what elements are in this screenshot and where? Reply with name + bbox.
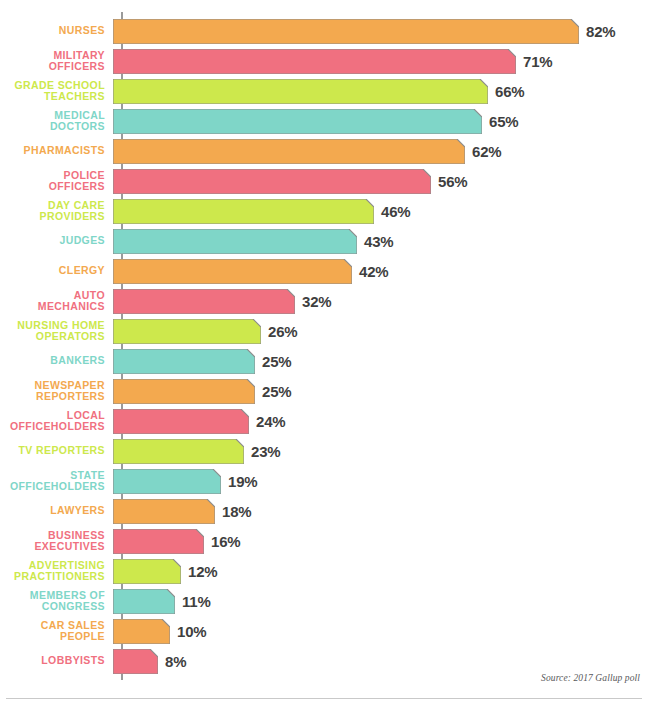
- bar-value-label: 19%: [228, 473, 257, 490]
- bar-plot-area: 10%: [113, 616, 648, 646]
- bar[interactable]: [113, 559, 181, 584]
- bar-wrapper: 65%: [113, 109, 518, 134]
- bar-wrapper: 18%: [113, 499, 251, 524]
- bar-value-label: 18%: [222, 503, 251, 520]
- bar-wrapper: 11%: [113, 589, 211, 614]
- bar-wrapper: 12%: [113, 559, 217, 584]
- bar-plot-area: 25%: [113, 376, 648, 406]
- bar-row: MILITARY OFFICERS71%: [0, 46, 648, 76]
- bar-row: NEWSPAPER REPORTERS25%: [0, 376, 648, 406]
- bar-wrapper: 62%: [113, 139, 501, 164]
- bar-row: CAR SALES PEOPLE10%: [0, 616, 648, 646]
- bar-shape: [113, 619, 170, 644]
- bar-value-label: 82%: [586, 23, 615, 40]
- bar-value-label: 16%: [211, 533, 240, 550]
- bar-wrapper: 8%: [113, 649, 186, 674]
- bar-row: JUDGES43%: [0, 226, 648, 256]
- bar[interactable]: [113, 289, 295, 314]
- bar[interactable]: [113, 139, 465, 164]
- bar-shape: [113, 139, 465, 164]
- bar[interactable]: [113, 589, 175, 614]
- bar-plot-area: 65%: [113, 106, 648, 136]
- bar-category-label: TV REPORTERS: [0, 445, 113, 457]
- bottom-divider: [6, 698, 642, 699]
- bar-plot-area: 24%: [113, 406, 648, 436]
- bar-category-label: MEMBERS OF CONGRESS: [0, 590, 113, 613]
- bar[interactable]: [113, 349, 255, 374]
- bar-wrapper: 43%: [113, 229, 393, 254]
- bar-category-label: DAY CARE PROVIDERS: [0, 200, 113, 223]
- bar-shape: [113, 499, 215, 524]
- bar-shape: [113, 229, 357, 254]
- bar-row: LAWYERS18%: [0, 496, 648, 526]
- bar-value-label: 10%: [177, 623, 206, 640]
- bar-value-label: 42%: [359, 263, 388, 280]
- bar-value-label: 62%: [472, 143, 501, 160]
- bar-wrapper: 24%: [113, 409, 285, 434]
- bar-row: AUTO MECHANICS32%: [0, 286, 648, 316]
- bar-row: MEDICAL DOCTORS65%: [0, 106, 648, 136]
- bar-value-label: 32%: [302, 293, 331, 310]
- bar-value-label: 24%: [256, 413, 285, 430]
- bar-shape: [113, 169, 431, 194]
- bar-plot-area: 71%: [113, 46, 648, 76]
- bar-row: POLICE OFFICERS56%: [0, 166, 648, 196]
- bar[interactable]: [113, 169, 431, 194]
- bar[interactable]: [113, 319, 261, 344]
- bar-wrapper: 66%: [113, 79, 524, 104]
- bar-row: CLERGY42%: [0, 256, 648, 286]
- bar-plot-area: 11%: [113, 586, 648, 616]
- bar[interactable]: [113, 409, 249, 434]
- bar[interactable]: [113, 259, 352, 284]
- bar[interactable]: [113, 109, 482, 134]
- bar-wrapper: 71%: [113, 49, 552, 74]
- bar-shape: [113, 349, 255, 374]
- bar-row: NURSES82%: [0, 16, 648, 46]
- bar-row: BANKERS25%: [0, 346, 648, 376]
- bar-category-label: STATE OFFICEHOLDERS: [0, 470, 113, 493]
- bar-category-label: BANKERS: [0, 355, 113, 367]
- bar-category-label: BUSINESS EXECUTIVES: [0, 530, 113, 553]
- bar-category-label: GRADE SCHOOL TEACHERS: [0, 80, 113, 103]
- bar-category-label: JUDGES: [0, 235, 113, 247]
- bar-shape: [113, 409, 249, 434]
- bar[interactable]: [113, 379, 255, 404]
- bar-row: TV REPORTERS23%: [0, 436, 648, 466]
- bar[interactable]: [113, 619, 170, 644]
- bar[interactable]: [113, 49, 516, 74]
- bar-value-label: 46%: [381, 203, 410, 220]
- bar-shape: [113, 109, 482, 134]
- bar[interactable]: [113, 499, 215, 524]
- bar-value-label: 12%: [188, 563, 217, 580]
- bar[interactable]: [113, 469, 221, 494]
- bar[interactable]: [113, 19, 579, 44]
- bar-row: MEMBERS OF CONGRESS11%: [0, 586, 648, 616]
- bar[interactable]: [113, 649, 158, 674]
- bar-shape: [113, 289, 295, 314]
- bar-plot-area: 46%: [113, 196, 648, 226]
- bar-row: STATE OFFICEHOLDERS19%: [0, 466, 648, 496]
- bar-wrapper: 42%: [113, 259, 388, 284]
- bar-category-label: MEDICAL DOCTORS: [0, 110, 113, 133]
- bar-plot-area: 42%: [113, 256, 648, 286]
- bar[interactable]: [113, 79, 488, 104]
- bar[interactable]: [113, 199, 374, 224]
- bar-category-label: ADVERTISING PRACTITIONERS: [0, 560, 113, 583]
- bar-value-label: 56%: [438, 173, 467, 190]
- bar-plot-area: 23%: [113, 436, 648, 466]
- bar-category-label: AUTO MECHANICS: [0, 290, 113, 313]
- bar-value-label: 43%: [364, 233, 393, 250]
- bar[interactable]: [113, 439, 244, 464]
- bar-wrapper: 56%: [113, 169, 467, 194]
- bar-chart: NURSES82%MILITARY OFFICERS71%GRADE SCHOO…: [0, 0, 648, 707]
- bar[interactable]: [113, 529, 204, 554]
- bar-rows-container: NURSES82%MILITARY OFFICERS71%GRADE SCHOO…: [0, 16, 648, 676]
- bar-wrapper: 25%: [113, 349, 291, 374]
- bar-plot-area: 62%: [113, 136, 648, 166]
- bar-plot-area: 16%: [113, 526, 648, 556]
- bar-category-label: POLICE OFFICERS: [0, 170, 113, 193]
- bar-shape: [113, 559, 181, 584]
- bar[interactable]: [113, 229, 357, 254]
- bar-value-label: 25%: [262, 353, 291, 370]
- bar-wrapper: 10%: [113, 619, 206, 644]
